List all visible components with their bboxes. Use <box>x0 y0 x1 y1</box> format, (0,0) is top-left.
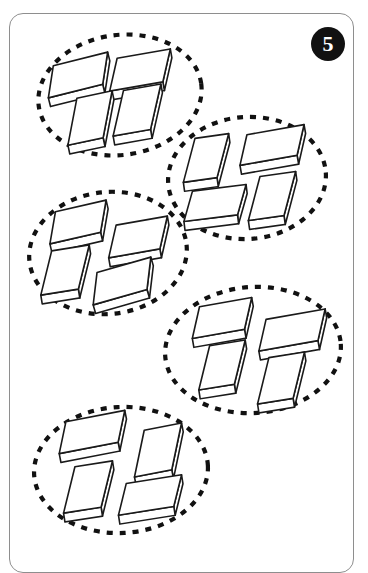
box-item <box>235 125 311 175</box>
box-item <box>178 134 236 192</box>
box-item <box>192 340 253 399</box>
box-item <box>254 309 332 360</box>
box-item <box>180 185 250 231</box>
box-item <box>43 200 115 253</box>
exercise-number-label: 5 <box>323 33 334 55</box>
box-item <box>103 216 174 267</box>
box-item <box>114 475 188 524</box>
group-4 <box>161 281 345 419</box>
box-top-face <box>126 423 190 477</box>
box-item <box>57 461 121 522</box>
group-5 <box>31 403 211 538</box>
box-item <box>34 245 97 304</box>
box-item <box>251 352 313 413</box>
box-item <box>243 171 303 229</box>
group-3 <box>23 184 193 322</box>
group-2 <box>164 112 330 245</box>
exercise-number-badge: 5 <box>311 27 345 61</box>
box-item <box>54 410 133 462</box>
box-item <box>85 257 162 313</box>
